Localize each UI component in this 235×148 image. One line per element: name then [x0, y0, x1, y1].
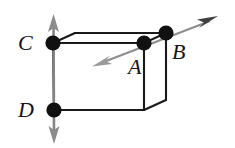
vertical-axis-arrow: [48, 14, 60, 144]
point-label-D: D: [18, 99, 34, 121]
geometry-figure: C D A B: [0, 0, 235, 148]
diagonal-axis-arrow: [92, 16, 218, 67]
point-C-dot: [45, 35, 60, 50]
edge-receding-bottom-right: [144, 100, 166, 110]
diagonal-arrow-head-upright: [197, 16, 218, 28]
point-label-C: C: [18, 32, 33, 54]
point-label-A: A: [128, 56, 141, 78]
point-label-B: B: [172, 41, 185, 63]
figure-canvas: [0, 0, 235, 148]
point-A-dot: [136, 35, 151, 50]
point-D-dot: [46, 102, 61, 117]
